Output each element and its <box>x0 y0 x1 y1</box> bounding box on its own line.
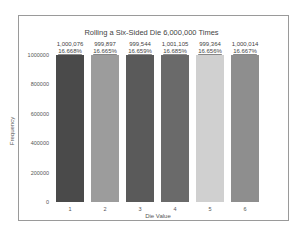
x-tick-label: 1 <box>56 206 84 212</box>
bar-value-label: 1,001,10516.685% <box>155 41 195 54</box>
y-tick-label: 0 <box>46 199 49 205</box>
y-tick-label: 800000 <box>31 81 49 87</box>
bar-percent: 16.665% <box>85 48 125 55</box>
bar-percent: 16.656% <box>190 48 230 55</box>
bar-6 <box>231 55 259 202</box>
x-axis-label: Die Value <box>0 213 303 219</box>
y-tick-label: 400000 <box>31 140 49 146</box>
x-tick-label: 3 <box>126 206 154 212</box>
x-tick-label: 6 <box>231 206 259 212</box>
y-tick-label: 200000 <box>31 170 49 176</box>
bar-value-label: 999,36416.656% <box>190 41 230 54</box>
y-tick-label: 600000 <box>31 111 49 117</box>
x-tick-label: 2 <box>91 206 119 212</box>
bar-value-label: 1,000,07616.668% <box>50 41 90 54</box>
x-tick-label: 4 <box>161 206 189 212</box>
bar-percent: 16.668% <box>50 48 90 55</box>
bar-value-label: 1,000,01416.667% <box>225 41 265 54</box>
bar-percent: 16.685% <box>155 48 195 55</box>
bar-5 <box>196 55 224 202</box>
bar-value-label: 999,89716.665% <box>85 41 125 54</box>
x-tick-label: 5 <box>196 206 224 212</box>
y-tick-label: 1000000 <box>28 52 49 58</box>
bar-percent: 16.659% <box>120 48 160 55</box>
bar-3 <box>126 55 154 202</box>
bar-4 <box>161 55 189 202</box>
bar-2 <box>91 55 119 202</box>
bar-value-label: 999,54416.659% <box>120 41 160 54</box>
y-axis-label: Frequency <box>9 111 15 151</box>
bar-percent: 16.667% <box>225 48 265 55</box>
bar-1 <box>56 55 84 202</box>
chart-title: Rolling a Six-Sided Die 6,000,000 Times <box>0 28 303 37</box>
